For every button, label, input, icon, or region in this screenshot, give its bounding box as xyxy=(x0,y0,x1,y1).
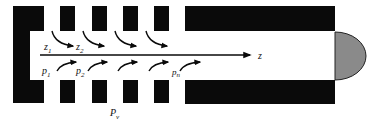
label-z1: z1 xyxy=(43,41,51,55)
flow-arrow-icon xyxy=(83,31,104,46)
flow-arrow-icon xyxy=(180,62,200,71)
label-pv: Pv xyxy=(109,107,120,121)
upper-wall-segment-4 xyxy=(154,6,169,31)
label-z-axis: z xyxy=(257,50,262,61)
label-p2: p2 xyxy=(75,65,85,79)
upper-flow-arrows xyxy=(52,31,167,46)
lower-wall-long xyxy=(185,80,335,104)
end-cap xyxy=(335,32,366,80)
flow-arrow-icon xyxy=(115,31,136,46)
label-z2: z2 xyxy=(75,41,84,55)
flow-arrow-icon xyxy=(146,31,167,46)
left-end-wall xyxy=(13,6,44,103)
lower-wall-segment-4 xyxy=(154,80,169,103)
flow-arrow-icon xyxy=(149,62,168,71)
upper-wall-segment-1 xyxy=(60,6,75,31)
flow-arrow-icon xyxy=(52,31,73,46)
upper-wall-segment-3 xyxy=(123,6,138,31)
lower-wall-segment-1 xyxy=(60,80,75,103)
lower-wall-segment-3 xyxy=(123,80,138,103)
label-p1: p1 xyxy=(41,65,51,79)
vacuum-pipe-diagram: z z1 z2 p1 p2 pn Pv xyxy=(0,0,382,123)
upper-wall-segments xyxy=(60,6,335,31)
flow-arrow-icon xyxy=(88,62,107,71)
flow-arrow-icon xyxy=(118,62,137,71)
label-pn: pn xyxy=(171,67,181,79)
lower-wall-segment-2 xyxy=(92,80,107,103)
upper-wall-segment-2 xyxy=(92,6,107,31)
flow-arrow-icon xyxy=(57,62,76,71)
upper-wall-long xyxy=(185,6,335,31)
lower-wall-segments xyxy=(60,80,335,104)
